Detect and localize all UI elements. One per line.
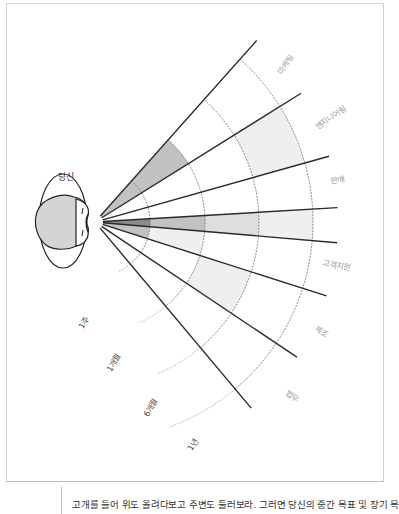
time-label: 6개월 [141, 397, 159, 419]
person-head-icon [35, 174, 88, 268]
department-ray [100, 228, 251, 408]
time-label: 1주 [77, 315, 91, 330]
wedge-segment [234, 106, 305, 177]
you-label: 당신 [58, 172, 74, 182]
department-label: 제조 [313, 324, 330, 339]
department-label: 엔지니어링 [313, 103, 347, 131]
caption-side-rule [61, 487, 62, 514]
caption-text: 고개를 들어 위도 올려다보고 주변도 둘러보라. 그러면 당신의 중간 목표 … [72, 497, 399, 511]
time-label: 1개월 [104, 352, 122, 374]
time-label: 1년 [185, 437, 200, 452]
time-leader-line [140, 306, 166, 322]
time-leader-line [170, 389, 236, 427]
shaded-wedges [100, 106, 313, 313]
department-label: 법무 [283, 387, 300, 404]
time-labels: 1주1개월6개월1년 [77, 315, 200, 452]
wedge-segment [258, 209, 313, 241]
department-label: 마케팅 [276, 53, 296, 76]
department-label: 판매 [330, 175, 345, 186]
time-leader-line [119, 264, 130, 271]
wedge-segment [132, 140, 189, 193]
department-ray [100, 41, 256, 216]
time-horizon-fan-diagram: 당신 마케팅엔지니어링판매고객지원제조법무 1주1개월6개월1년 [0, 0, 388, 480]
time-leader-line [156, 348, 200, 374]
wedge-segment [100, 181, 141, 218]
department-label: 고객지원 [322, 257, 351, 273]
caption-divider [6, 481, 384, 482]
